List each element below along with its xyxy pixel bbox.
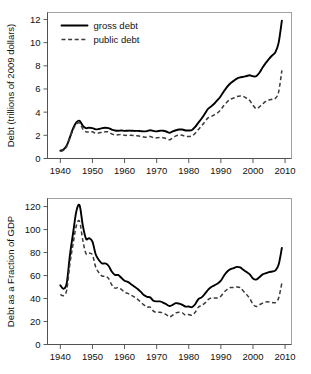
y-tick-label: 4 — [35, 107, 40, 118]
legend-label-gross-debt: gross debt — [94, 20, 139, 31]
x-tick-label: 1960 — [114, 165, 135, 176]
x-tick-label: 2010 — [275, 351, 296, 362]
y-tick-label: 80 — [30, 247, 41, 258]
x-tick-label: 2000 — [242, 351, 263, 362]
axis-spines — [48, 13, 292, 159]
series-line-public-debt — [60, 221, 282, 317]
x-tick-label: 1990 — [210, 351, 231, 362]
series-line-public-debt — [60, 70, 282, 151]
y-tick-label: 8 — [35, 60, 40, 71]
y-tick-label: 120 — [25, 201, 41, 212]
x-tick-label: 1980 — [178, 165, 199, 176]
plot-frame — [48, 199, 292, 345]
plot-frame — [48, 13, 292, 159]
x-tick-label: 1940 — [50, 165, 71, 176]
y-tick-label: 6 — [35, 83, 40, 94]
axis-spines — [48, 199, 292, 345]
x-tick-label: 2010 — [275, 165, 296, 176]
y-tick-label: 20 — [30, 316, 41, 327]
y-tick-label: 100 — [25, 224, 41, 235]
y-tick-label: 60 — [30, 270, 41, 281]
y-tick-label: 2 — [35, 130, 40, 141]
x-tick-label: 2000 — [242, 165, 263, 176]
x-tick-label: 1950 — [82, 165, 103, 176]
debt-figure: 0246810121940195019601970198019902000201… — [0, 0, 311, 374]
y-tick-label: 40 — [30, 293, 41, 304]
x-tick-label: 1970 — [146, 351, 167, 362]
y-tick-label: 12 — [30, 14, 41, 25]
y-axis-title: Debt as a Fraction of GDP — [5, 216, 16, 327]
chart-panel-debt-gdp-fraction: 0204060801001201940195019601970198019902… — [0, 186, 311, 374]
series-line-gross-debt — [60, 205, 282, 308]
legend-label-public-debt: public debt — [94, 34, 140, 45]
y-axis-title: Debt (trillions of 2009 dollars) — [5, 24, 16, 148]
x-tick-label: 1950 — [82, 351, 103, 362]
y-tick-label: 0 — [35, 153, 40, 164]
chart-panel-debt-trillions: 0246810121940195019601970198019902000201… — [0, 0, 311, 188]
x-tick-label: 1990 — [210, 165, 231, 176]
x-tick-label: 1960 — [114, 351, 135, 362]
x-tick-label: 1970 — [146, 165, 167, 176]
y-tick-label: 0 — [35, 339, 40, 350]
x-tick-label: 1940 — [50, 351, 71, 362]
debt-gdp-fraction-plot: 0204060801001201940195019601970198019902… — [0, 186, 311, 374]
x-tick-label: 1980 — [178, 351, 199, 362]
debt-trillions-plot: 0246810121940195019601970198019902000201… — [0, 0, 311, 188]
y-tick-label: 10 — [30, 37, 41, 48]
